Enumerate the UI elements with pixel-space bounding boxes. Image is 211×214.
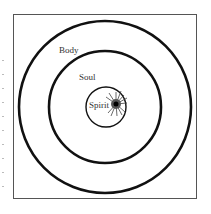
spirit-burst-icon xyxy=(106,91,127,116)
body-label: Body xyxy=(59,45,79,55)
spirit-label: Spirit xyxy=(89,100,109,110)
soul-label: Soul xyxy=(79,72,96,82)
